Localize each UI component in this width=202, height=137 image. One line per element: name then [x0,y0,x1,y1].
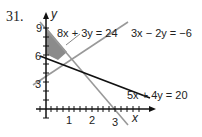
graph [0,0,202,137]
y-axis-label: y [51,7,57,21]
x-axis-label: x [132,111,138,125]
label-eq2: 3x − 2y = −6 [131,27,192,39]
label-eq3: 5x + 4y = 20 [127,89,188,101]
y-tick-9: 9 [36,22,42,34]
y-tick-3: 3 [35,78,41,90]
x-tick-2: 2 [89,114,95,126]
x-tick-1: 1 [66,114,72,126]
x-tick-3: 3 [112,116,118,128]
label-eq1: 8x + 3y = 24 [57,27,118,39]
y-tick-6: 6 [35,50,41,62]
